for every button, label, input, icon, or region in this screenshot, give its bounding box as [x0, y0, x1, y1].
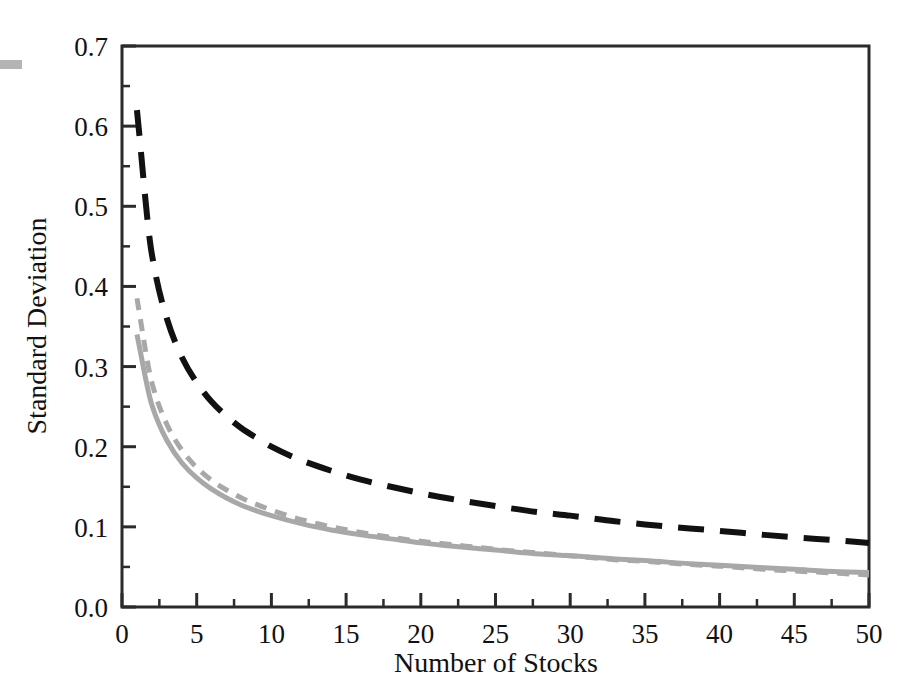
x-tick-label-50: 50 — [856, 619, 883, 649]
x-axis-tick-labels: 05101520253035404550 — [115, 619, 882, 649]
x-tick-label-10: 10 — [258, 619, 285, 649]
plot-frame-box — [122, 46, 869, 607]
y-tick-label-0.1: 0.1 — [74, 513, 108, 543]
y-tick-label-0.7: 0.7 — [74, 32, 108, 62]
x-tick-label-0: 0 — [115, 619, 129, 649]
y-tick-label-0.3: 0.3 — [74, 353, 108, 383]
y-axis-title: Standard Deviation — [21, 218, 52, 435]
x-tick-label-15: 15 — [333, 619, 360, 649]
axis-frame — [122, 46, 869, 607]
standard-deviation-vs-number-of-stocks-chart: 05101520253035404550 0.00.10.20.30.40.50… — [0, 0, 906, 698]
series-middle-dashed-gray — [137, 298, 869, 574]
x-tick-label-5: 5 — [190, 619, 204, 649]
y-tick-label-0.2: 0.2 — [74, 433, 108, 463]
series-lower-solid-gray — [137, 335, 869, 573]
y-tick-label-0.6: 0.6 — [74, 112, 108, 142]
y-tick-label-0.4: 0.4 — [74, 272, 108, 302]
x-tick-label-20: 20 — [407, 619, 434, 649]
y-tick-label-0.5: 0.5 — [74, 192, 108, 222]
x-axis-title: Number of Stocks — [394, 647, 598, 678]
figure-container: 05101520253035404550 0.00.10.20.30.40.50… — [0, 0, 906, 698]
y-axis-tick-labels: 0.00.10.20.30.40.50.60.7 — [74, 32, 108, 623]
x-tick-label-45: 45 — [781, 619, 808, 649]
x-tick-label-25: 25 — [482, 619, 509, 649]
y-tick-label-0.0: 0.0 — [74, 593, 108, 623]
series-upper-dashed-black — [137, 110, 869, 543]
data-series-layer — [137, 110, 869, 575]
x-tick-label-40: 40 — [706, 619, 733, 649]
x-tick-label-35: 35 — [631, 619, 658, 649]
x-tick-label-30: 30 — [557, 619, 584, 649]
